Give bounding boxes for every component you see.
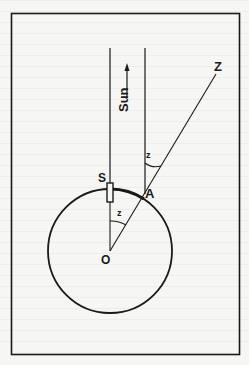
angle-label-center: z [117, 208, 122, 218]
diagram-canvas: Sun Z S A O z z [0, 0, 249, 365]
arc-syene-alexandria [110, 189, 144, 199]
angle-label-top: z [146, 150, 151, 160]
angle-arc-alexandria [145, 163, 161, 167]
angle-arc-center [110, 221, 126, 225]
zenith-label: Z [214, 59, 222, 74]
figure-frame [12, 14, 240, 355]
arrow-up-icon [125, 63, 130, 71]
center-label: O [101, 253, 110, 267]
well-at-syene [107, 183, 113, 202]
syene-label: S [98, 171, 106, 185]
sun-label: Sun [116, 87, 131, 112]
alexandria-label: A [145, 186, 155, 201]
